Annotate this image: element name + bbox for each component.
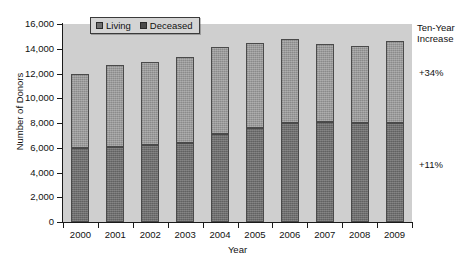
bar-2006	[281, 24, 299, 222]
y-tick	[57, 173, 63, 174]
bar-segment-living	[106, 65, 124, 147]
bar-segment-living	[246, 43, 264, 128]
legend-swatch-living-icon	[96, 22, 103, 29]
x-tick-label: 2005	[244, 230, 265, 240]
ten-year-increase-heading: Ten-Year Increase	[417, 22, 455, 44]
x-tick	[98, 223, 99, 228]
bar-2003	[176, 24, 194, 222]
y-tick	[57, 74, 63, 75]
x-tick-label: 2004	[209, 230, 230, 240]
x-tick	[412, 223, 413, 228]
x-tick	[203, 223, 204, 228]
bar-2001	[106, 24, 124, 222]
x-tick-label: 2003	[175, 230, 196, 240]
bar-segment-deceased	[386, 123, 404, 222]
x-tick-label: 2001	[105, 230, 126, 240]
x-tick	[133, 223, 134, 228]
bar-2000	[71, 24, 89, 222]
x-tick	[238, 223, 239, 228]
x-axis-title: Year	[63, 244, 412, 255]
bar-segment-living	[141, 62, 159, 145]
x-tick-label: 2009	[384, 230, 405, 240]
x-tick	[377, 223, 378, 228]
y-tick-label: 4,000	[30, 168, 54, 178]
legend-label-living: Living	[106, 20, 131, 31]
bar-segment-living	[71, 74, 89, 148]
bar-2009	[386, 24, 404, 222]
x-tick-label: 2007	[314, 230, 335, 240]
bar-segment-deceased	[246, 128, 264, 222]
x-tick-label: 2000	[70, 230, 91, 240]
y-tick	[57, 197, 63, 198]
chart-legend: Living Deceased	[90, 17, 200, 34]
legend-item-living: Living	[96, 20, 131, 31]
bar-segment-living	[351, 46, 369, 123]
bar-2005	[246, 24, 264, 222]
ten-year-increase-line1: Ten-Year	[417, 22, 455, 33]
x-tick	[342, 223, 343, 228]
y-tick	[57, 98, 63, 99]
bar-2004	[211, 24, 229, 222]
bar-segment-living	[316, 44, 334, 122]
bar-segment-deceased	[211, 134, 229, 222]
y-tick-label: 16,000	[25, 19, 54, 29]
y-tick-label: 10,000	[25, 93, 54, 103]
bar-segment-living	[386, 41, 404, 123]
living-increase-value: +34%	[419, 67, 444, 78]
y-tick	[57, 123, 63, 124]
x-tick-label: 2008	[349, 230, 370, 240]
bar-segment-deceased	[71, 148, 89, 222]
ten-year-increase-line2: Increase	[417, 33, 455, 44]
y-tick	[57, 24, 63, 25]
y-tick-label: 0	[49, 217, 54, 227]
x-tick	[272, 223, 273, 228]
y-tick-label: 14,000	[25, 44, 54, 54]
y-tick-label: 8,000	[30, 118, 54, 128]
y-tick-label: 2,000	[30, 192, 54, 202]
bar-2008	[351, 24, 369, 222]
deceased-increase-value: +11%	[419, 159, 443, 170]
donor-bar-chart: 16,00014,00012,00010,0008,0006,0004,0002…	[0, 0, 476, 268]
bar-2002	[141, 24, 159, 222]
bar-segment-living	[176, 57, 194, 142]
plot-area	[63, 24, 412, 222]
bar-segment-deceased	[106, 147, 124, 222]
y-axis-title: Number of Donors	[14, 57, 25, 167]
bar-segment-deceased	[316, 122, 334, 222]
x-tick	[307, 223, 308, 228]
x-tick-label: 2006	[279, 230, 300, 240]
y-tick	[57, 49, 63, 50]
bar-segment-deceased	[281, 123, 299, 222]
legend-label-deceased: Deceased	[150, 20, 193, 31]
y-tick-label: 6,000	[30, 143, 54, 153]
bar-segment-deceased	[176, 143, 194, 222]
y-tick-label: 12,000	[25, 69, 54, 79]
bars-layer	[63, 24, 412, 222]
x-tick-label: 2002	[140, 230, 161, 240]
bar-segment-living	[211, 47, 229, 134]
x-tick	[63, 223, 64, 228]
legend-item-deceased: Deceased	[140, 20, 193, 31]
x-tick	[168, 223, 169, 228]
bar-segment-living	[281, 39, 299, 123]
bar-segment-deceased	[351, 123, 369, 222]
legend-swatch-deceased-icon	[140, 22, 147, 29]
bar-segment-deceased	[141, 145, 159, 222]
y-tick	[57, 148, 63, 149]
bar-2007	[316, 24, 334, 222]
